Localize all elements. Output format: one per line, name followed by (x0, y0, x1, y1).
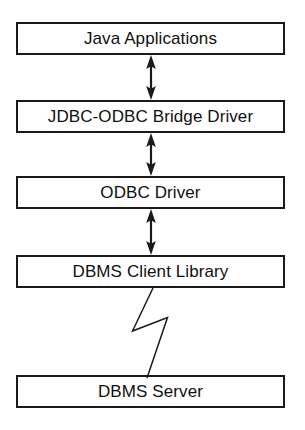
architecture-diagram: Java Applications JDBC-ODBC Bridge Drive… (0, 0, 305, 430)
layer-box-odbc-driver: ODBC Driver (16, 176, 285, 209)
layer-box-java-applications: Java Applications (16, 22, 285, 55)
layer-label-jdbc-odbc-bridge: JDBC-ODBC Bridge Driver (48, 108, 253, 125)
layer-label-dbms-server: DBMS Server (98, 383, 203, 400)
layer-label-dbms-client-library: DBMS Client Library (73, 263, 229, 280)
layer-box-dbms-client-library: DBMS Client Library (16, 255, 285, 288)
layer-label-java-applications: Java Applications (84, 30, 217, 47)
connector-hit-client-server (126, 288, 172, 378)
layer-box-dbms-server: DBMS Server (16, 375, 285, 408)
connector-hit-odbc-client (138, 209, 164, 255)
connector-hit-bridge-odbc (138, 133, 164, 176)
layer-box-jdbc-odbc-bridge: JDBC-ODBC Bridge Driver (16, 100, 285, 133)
connector-hit-java-bridge (138, 55, 164, 100)
layer-label-odbc-driver: ODBC Driver (100, 184, 200, 201)
